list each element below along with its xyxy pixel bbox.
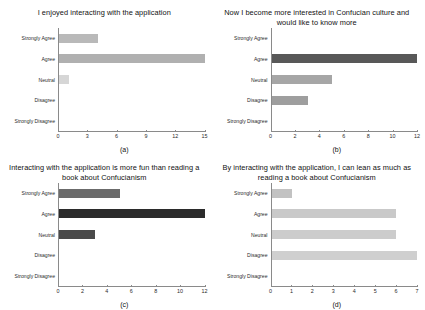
- panel-caption: (d): [217, 297, 418, 308]
- x-tick-label: 6: [342, 133, 345, 139]
- x-tick-label: 12: [414, 133, 420, 139]
- panel-caption: (c): [4, 297, 205, 308]
- x-tick-mark: [344, 130, 345, 132]
- x-tick-label: 6: [115, 133, 118, 139]
- bar: [272, 54, 418, 63]
- y-axis-label: Neutral: [251, 232, 267, 238]
- y-axis-labels: Strongly AgreeAgreeNeutralDisagreeStrong…: [6, 28, 58, 131]
- x-tick-mark: [117, 130, 118, 132]
- plot-area: Strongly AgreeAgreeNeutralDisagreeStrong…: [217, 28, 418, 142]
- x-tick-mark: [175, 130, 176, 132]
- bar: [59, 209, 205, 218]
- y-axis-label: Agree: [41, 56, 55, 62]
- bar-row: [59, 251, 205, 260]
- bar-row: [272, 251, 418, 260]
- bar-row: [59, 189, 205, 198]
- x-tick-label: 2: [311, 288, 314, 294]
- chart-panel-d: By interacting with the application, I c…: [213, 155, 425, 310]
- y-axis-label: Neutral: [251, 77, 267, 83]
- y-axis-labels: Strongly AgreeAgreeNeutralDisagreeStrong…: [219, 28, 271, 131]
- bars-container: [58, 28, 205, 131]
- x-tick-mark: [58, 130, 59, 132]
- x-tick-mark: [396, 285, 397, 287]
- bar-row: [59, 54, 205, 63]
- y-axis-label: Disagree: [247, 97, 267, 103]
- x-tick-mark: [131, 285, 132, 287]
- chart-panel-b: Now I become more interested in Confucia…: [213, 0, 425, 155]
- y-axis-label: Strongly Disagree: [15, 118, 56, 124]
- bar: [272, 96, 308, 105]
- bar-row: [59, 209, 205, 218]
- x-tick-label: 15: [202, 133, 208, 139]
- x-tick-mark: [156, 285, 157, 287]
- x-tick-label: 12: [172, 133, 178, 139]
- x-axis-ticks: 01234567: [271, 287, 418, 297]
- x-tick-mark: [180, 285, 181, 287]
- x-tick-mark: [393, 130, 394, 132]
- bar-row: [272, 116, 418, 125]
- x-tick-mark: [107, 285, 108, 287]
- bar-row: [59, 34, 205, 43]
- bar: [59, 54, 205, 63]
- x-axis-ticks: 024681012: [271, 132, 418, 142]
- x-tick-label: 1: [290, 288, 293, 294]
- x-tick-label: 4: [318, 133, 321, 139]
- bar-row: [272, 209, 418, 218]
- bars-container: [271, 183, 418, 286]
- y-axis-label: Strongly Agree: [234, 190, 267, 196]
- bar-row: [272, 34, 418, 43]
- bar: [59, 34, 98, 43]
- y-axis-label: Disagree: [247, 252, 267, 258]
- bar: [272, 209, 397, 218]
- bars-container: [271, 28, 418, 131]
- x-tick-mark: [58, 285, 59, 287]
- bar-row: [59, 116, 205, 125]
- bar-row: [272, 189, 418, 198]
- bar-row: [59, 96, 205, 105]
- x-tick-mark: [291, 285, 292, 287]
- x-tick-label: 10: [390, 133, 396, 139]
- bar-row: [272, 75, 418, 84]
- bar-row: [59, 230, 205, 239]
- panel-title: By interacting with the application, I c…: [217, 161, 418, 183]
- y-axis-label: Agree: [254, 56, 268, 62]
- x-tick-mark: [417, 130, 418, 132]
- x-tick-label: 10: [177, 288, 183, 294]
- x-tick-mark: [205, 130, 206, 132]
- x-tick-mark: [354, 285, 355, 287]
- panel-title: Now I become more interested in Confucia…: [217, 6, 418, 28]
- bar: [59, 189, 120, 198]
- x-tick-label: 6: [130, 288, 133, 294]
- x-tick-label: 12: [202, 288, 208, 294]
- plot-area: Strongly AgreeAgreeNeutralDisagreeStrong…: [4, 28, 205, 142]
- x-tick-label: 2: [81, 288, 84, 294]
- plot-area: Strongly AgreeAgreeNeutralDisagreeStrong…: [4, 183, 205, 297]
- y-axis-label: Disagree: [35, 252, 55, 258]
- x-tick-label: 8: [367, 133, 370, 139]
- bar-row: [272, 54, 418, 63]
- figure-grid: I enjoyed interacting with the applicati…: [0, 0, 425, 310]
- y-axis-label: Agree: [41, 211, 55, 217]
- chart-panel-a: I enjoyed interacting with the applicati…: [0, 0, 213, 155]
- x-axis-ticks: 03691215: [58, 132, 205, 142]
- bar-row: [272, 230, 418, 239]
- y-axis-label: Strongly Disagree: [15, 273, 56, 279]
- bar: [59, 230, 95, 239]
- x-tick-mark: [82, 285, 83, 287]
- x-tick-mark: [87, 130, 88, 132]
- y-axis-label: Strongly Agree: [22, 190, 55, 196]
- bar: [272, 251, 418, 260]
- panel-title: I enjoyed interacting with the applicati…: [4, 6, 205, 28]
- x-tick-mark: [205, 285, 206, 287]
- x-tick-mark: [368, 130, 369, 132]
- x-tick-mark: [312, 285, 313, 287]
- y-axis-labels: Strongly AgreeAgreeNeutralDisagreeStrong…: [6, 183, 58, 286]
- y-axis-label: Strongly Disagree: [227, 273, 268, 279]
- x-tick-label: 9: [144, 133, 147, 139]
- bar-row: [272, 271, 418, 280]
- x-tick-label: 0: [269, 288, 272, 294]
- bar: [272, 230, 397, 239]
- x-tick-mark: [271, 130, 272, 132]
- x-tick-mark: [375, 285, 376, 287]
- x-tick-mark: [271, 285, 272, 287]
